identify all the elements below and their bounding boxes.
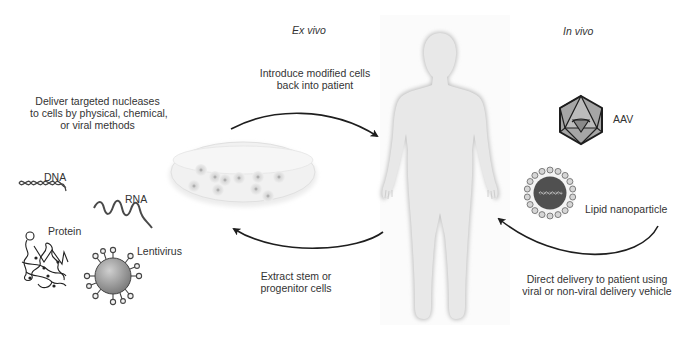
label-line: Extract stem or xyxy=(256,270,336,282)
lipid-nanoparticle-icon xyxy=(524,167,576,219)
label-line: or viral methods xyxy=(30,119,165,131)
label-deliver-nucleases: Deliver targeted nucleases to cells by p… xyxy=(30,95,165,131)
label-line: Introduce modified cells xyxy=(255,67,375,79)
label-dna: DNA xyxy=(44,171,66,183)
arrow-introduce-cells xyxy=(231,113,377,136)
label-line: back into patient xyxy=(255,79,375,91)
label-lentivirus: Lentivirus xyxy=(137,245,182,257)
protein-icon xyxy=(22,232,68,288)
label-line: viral or non-viral delivery vehicle xyxy=(522,285,672,297)
label-rna: RNA xyxy=(125,193,147,205)
label-extract-cells: Extract stem or progenitor cells xyxy=(256,270,336,294)
label-line: Deliver targeted nucleases xyxy=(30,95,165,107)
label-lipid-nanoparticle: Lipid nanoparticle xyxy=(585,203,667,215)
label-line: Direct delivery to patient using xyxy=(522,273,672,285)
petri-dish-icon xyxy=(169,142,317,207)
label-aav: AAV xyxy=(613,113,633,125)
gene-editing-delivery-diagram: Ex vivo In vivo Deliver targeted nucleas… xyxy=(0,0,681,341)
label-line: to cells by physical, chemical, xyxy=(30,107,165,119)
heading-in-vivo: In vivo xyxy=(563,25,593,37)
lentivirus-icon xyxy=(84,247,141,304)
label-direct-delivery: Direct delivery to patient using viral o… xyxy=(522,273,672,297)
aav-icon xyxy=(560,96,602,144)
arrow-direct-delivery xyxy=(499,219,658,254)
label-line: progenitor cells xyxy=(256,282,336,294)
arrow-extract-cells xyxy=(234,229,383,248)
label-protein: Protein xyxy=(48,225,81,237)
heading-ex-vivo: Ex vivo xyxy=(292,24,326,36)
label-introduce-cells: Introduce modified cells back into patie… xyxy=(255,67,375,91)
